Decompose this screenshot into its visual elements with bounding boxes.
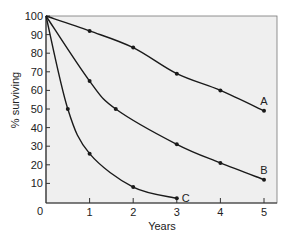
y-tick-label: 30 [31,140,43,152]
data-point [88,79,92,83]
y-tick-label: 80 [31,47,43,59]
y-tick-label: 60 [31,84,43,96]
x-tick-label: 3 [174,206,180,218]
data-point [175,196,179,200]
series-label: C [182,192,190,204]
data-point [131,46,135,50]
data-point [262,109,266,113]
series-label: B [260,164,267,176]
x-tick-label: 1 [87,206,93,218]
data-point [88,29,92,33]
data-point [218,161,222,165]
data-point [175,142,179,146]
x-axis-title: Years [148,220,176,232]
plot-area [46,16,277,203]
data-point [66,107,70,111]
y-tick-label: 100 [25,10,43,22]
y-tick-label: 40 [31,122,43,134]
y-tick-label: 90 [31,29,43,41]
y-axis-title: % surviving [9,72,21,128]
origin-label: 0 [37,205,43,217]
data-point [88,152,92,156]
series-label: A [260,95,268,107]
y-tick-label: 20 [31,159,43,171]
x-tick-label: 2 [130,206,136,218]
data-point [131,185,135,189]
x-tick-label: 4 [217,206,223,218]
y-tick-label: 10 [31,177,43,189]
data-point [175,72,179,76]
y-tick-label: 50 [31,103,43,115]
y-tick-label: 70 [31,66,43,78]
survival-chart: 102030405060708090100012345 ABC Years % … [0,0,291,244]
data-point [218,88,222,92]
x-tick-label: 5 [261,206,267,218]
data-point [114,107,118,111]
data-point [262,178,266,182]
